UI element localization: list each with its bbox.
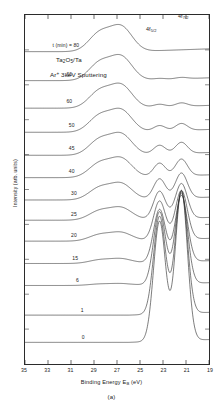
x-axis-label: Binding Energy EB (eV) bbox=[0, 379, 223, 386]
spectrum-curve-t-20 bbox=[25, 190, 209, 241]
x-tick-label-25: 25 bbox=[137, 367, 143, 373]
x-tick-label-31: 31 bbox=[68, 367, 74, 373]
series-time-label-t-0: 0 bbox=[82, 334, 85, 340]
xps-spectra-figure: Ta2O5/Ta Ar+ 3keV Sputtering 4f5/2 4f7/2… bbox=[0, 0, 223, 420]
spectrum-curve-t-0 bbox=[25, 190, 209, 342]
y-axis-label: Intensity (arb. units) bbox=[12, 128, 18, 238]
series-time-label-t-20: 20 bbox=[71, 232, 77, 238]
series-time-label-t-25: 25 bbox=[71, 211, 77, 217]
panel-caption: (a) bbox=[0, 394, 223, 400]
plot-frame bbox=[24, 14, 210, 365]
series-time-label-t-40: 40 bbox=[69, 168, 75, 174]
peak-label-4f-5-2-sub: 5/2 bbox=[151, 28, 157, 33]
x-tick-label-27: 27 bbox=[114, 367, 120, 373]
x-tick-label-33: 33 bbox=[44, 367, 50, 373]
series-time-label-t-50: 50 bbox=[69, 122, 75, 128]
series-time-label-t-15: 15 bbox=[72, 255, 78, 261]
spectrum-curve-t-45 bbox=[25, 132, 209, 155]
spectrum-curve-t-1 bbox=[25, 191, 209, 315]
x-tick-label-23: 23 bbox=[161, 367, 167, 373]
spectrum-curve-t-15 bbox=[25, 195, 209, 263]
x-tick-label-19: 19 bbox=[207, 367, 213, 373]
x-axis-label-unit: (eV) bbox=[129, 379, 142, 385]
series-time-label-t-66: 66 bbox=[66, 71, 72, 77]
series-time-label-t-45: 45 bbox=[69, 145, 75, 151]
sample-formula-suffix: /Ta bbox=[73, 56, 82, 63]
spectrum-curve-t-30 bbox=[25, 173, 209, 200]
spectrum-curve-t-50 bbox=[25, 108, 209, 132]
x-tick-label-29: 29 bbox=[91, 367, 97, 373]
sample-annotation: Ta2O5/Ta bbox=[56, 56, 82, 65]
series-time-label-t-1: 1 bbox=[81, 307, 84, 313]
condition-annotation: Ar+ 3keV Sputtering bbox=[50, 70, 107, 78]
x-tick-label-35: 35 bbox=[21, 367, 27, 373]
peak-label-4f-7-2-sub: 7/2 bbox=[183, 15, 189, 20]
spectrum-curve-t-60 bbox=[25, 83, 209, 108]
x-axis-label-main: Binding Energy E bbox=[81, 379, 127, 385]
sample-formula-prefix: Ta bbox=[56, 56, 63, 63]
x-tick-label-21: 21 bbox=[184, 367, 190, 373]
series-time-label-t-80: t (min) = 80 bbox=[53, 42, 80, 48]
spectrum-curve-t-25 bbox=[25, 183, 209, 220]
series-time-label-t-6: 6 bbox=[76, 277, 79, 283]
peak-label-4f-5-2: 4f5/2 bbox=[146, 26, 157, 33]
spectrum-curve-t-40 bbox=[25, 157, 209, 178]
spectra-curves bbox=[25, 15, 209, 364]
series-time-label-t-60: 60 bbox=[66, 98, 72, 104]
peak-label-4f-7-2: 4f7/2 bbox=[178, 13, 189, 20]
series-time-label-t-30: 30 bbox=[71, 190, 77, 196]
